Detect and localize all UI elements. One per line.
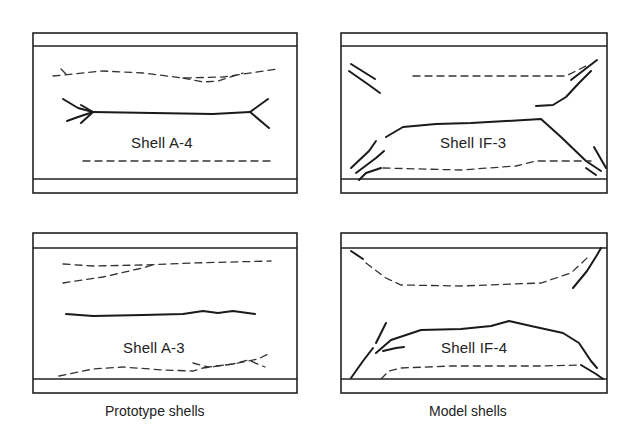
solid-crack-upper-left-1 [351, 64, 375, 79]
dashed-crack-lower [383, 161, 591, 170]
shell-frame [33, 233, 297, 393]
solid-crack-main [66, 311, 255, 316]
dashed-crack-upper [413, 66, 586, 76]
panel-shell-if3: Shell IF-3 [341, 33, 607, 193]
solid-crack-lower-right-stub [586, 168, 596, 175]
shell-a3-crack-diagram [33, 233, 297, 393]
dashed-crack-upper-2 [63, 265, 153, 283]
caption-prototype-shells: Prototype shells [105, 403, 205, 419]
solid-crack-lower-left-1 [351, 141, 376, 168]
dashed-crack-upper-tip [61, 69, 67, 75]
solid-crack-left-1 [376, 323, 386, 343]
caption-model-shells: Model shells [429, 403, 507, 419]
shell-label: Shell IF-3 [440, 134, 506, 151]
solid-crack-upper-left [351, 251, 363, 259]
dashed-crack-lower [381, 365, 581, 379]
shell-label: Shell IF-4 [441, 339, 507, 356]
shell-label: Shell A-3 [123, 339, 185, 356]
solid-crack-main [93, 112, 250, 114]
solid-crack-upper-left-2 [349, 71, 380, 93]
dashed-crack-upper [366, 258, 587, 286]
shell-a4-crack-diagram [33, 33, 297, 193]
solid-crack-lower-right-edge [594, 147, 606, 168]
solid-crack-left-3 [351, 348, 373, 378]
panel-shell-if4: Shell IF-4 [341, 233, 607, 393]
solid-crack-right-branch-up [250, 99, 268, 112]
panel-shell-a4: Shell A-4 [33, 33, 297, 193]
panel-shell-a3: Shell A-3 [33, 233, 297, 393]
solid-crack-lower-left-2 [356, 151, 384, 173]
dashed-crack-upper [53, 69, 278, 78]
dashed-crack-lower-1 [59, 354, 268, 376]
shell-frame [341, 233, 607, 393]
dashed-crack-lower-2 [193, 360, 265, 367]
shell-label: Shell A-4 [131, 134, 193, 151]
shell-if4-crack-diagram [341, 233, 607, 393]
solid-crack-right-branch-down [250, 112, 269, 128]
solid-crack-lower-right [581, 365, 603, 379]
dashed-crack-upper-1 [63, 261, 271, 266]
shell-if3-crack-diagram [341, 33, 607, 193]
solid-crack-left-2 [383, 347, 404, 351]
